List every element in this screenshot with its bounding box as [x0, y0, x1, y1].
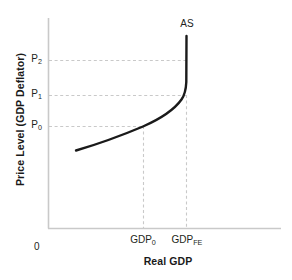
y-tick-p2-base: P	[31, 53, 38, 64]
as-curve	[76, 36, 187, 151]
x-tick-label-gdpfe: GDPFE	[157, 234, 217, 245]
x-tick-gdp0-subscript: 0	[152, 238, 156, 247]
aggregate-supply-chart: Price Level (GDP Deflator) Real GDP 0 P2…	[0, 0, 292, 280]
origin-label: 0	[34, 241, 40, 252]
y-tick-p1-base: P	[31, 88, 38, 99]
y-tick-p0-base: P	[31, 119, 38, 130]
x-axis-title: Real GDP	[131, 255, 205, 267]
y-tick-label-p2: P2	[16, 53, 42, 64]
y-tick-label-p1: P1	[16, 88, 42, 99]
x-tick-gdpfe-base: GDP	[172, 234, 194, 245]
y-tick-p1-subscript: 1	[38, 92, 42, 101]
y-tick-label-p0: P0	[16, 119, 42, 130]
y-tick-p0-subscript: 0	[38, 123, 42, 132]
as-curve-label: AS	[167, 18, 207, 29]
y-tick-p2-subscript: 2	[38, 57, 42, 66]
x-tick-gdpfe-subscript: FE	[193, 238, 202, 247]
x-tick-gdp0-base: GDP	[130, 234, 152, 245]
